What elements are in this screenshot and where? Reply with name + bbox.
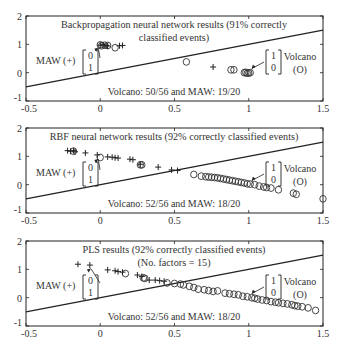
x-tick-label: 0.5	[168, 103, 181, 114]
volcano-point	[195, 286, 201, 293]
maw-point	[174, 168, 180, 174]
x-tick-label: 1.5	[317, 215, 330, 226]
maw-point	[134, 272, 140, 278]
maw-point	[75, 261, 81, 267]
x-tick-label: 1.5	[317, 328, 330, 339]
volcano-legend-symbol: (O)	[293, 289, 307, 301]
volcano-legend-symbol: (O)	[293, 64, 307, 76]
maw-vector-value: 0	[88, 162, 93, 173]
bracket-right	[278, 162, 281, 186]
x-tick-label: -0.5	[21, 103, 37, 114]
maw-point	[115, 155, 121, 161]
maw-legend-label: MAW (+)	[36, 280, 75, 292]
maw-vector-value: 0	[88, 275, 93, 286]
volcano-point	[183, 59, 189, 66]
volcano-point	[305, 304, 311, 311]
classification-summary: Volcano: 50/56 and MAW: 19/20	[108, 86, 241, 97]
x-tick-label: 1	[246, 328, 251, 339]
volcano-point	[251, 181, 257, 188]
volcano-point	[186, 283, 192, 290]
volcano-legend-label: Volcano	[284, 276, 317, 287]
maw-point	[157, 278, 163, 284]
volcano-point	[263, 297, 269, 304]
y-tick-label: 1	[17, 151, 22, 162]
maw-point	[146, 277, 152, 283]
volcano-legend-label: Volcano	[284, 163, 317, 174]
maw-legend-label: MAW (+)	[36, 55, 75, 67]
panel-3: -0.500.511.5-1012PLS results (92% correc…	[14, 236, 330, 339]
bracket-left	[83, 50, 86, 74]
x-tick-label: 1	[246, 103, 251, 114]
maw-arrow	[98, 48, 100, 58]
y-tick-label: 1	[17, 264, 22, 275]
bracket-right	[95, 162, 98, 186]
y-tick-label: 1	[17, 39, 22, 50]
maw-point	[152, 277, 158, 283]
panel-2: -0.500.511.5-1012RBF neural network resu…	[14, 123, 330, 226]
maw-point	[94, 152, 100, 158]
maw-point	[87, 262, 93, 268]
y-tick-label: 0	[17, 180, 22, 191]
maw-point	[127, 156, 133, 162]
maw-vector-value: 1	[88, 287, 93, 298]
figure: -0.500.511.5-1012Backpropagation neural …	[0, 0, 341, 355]
x-tick-label: 0.5	[168, 215, 181, 226]
volcano-vector-value: 0	[271, 62, 276, 73]
panel-title: PLS results (92% correctly classified ev…	[82, 244, 265, 256]
classification-summary: Volcano: 52/56 and MAW: 18/20	[108, 311, 241, 322]
maw-point	[109, 154, 115, 160]
bracket-right	[278, 50, 281, 74]
arrow-head-icon	[252, 290, 256, 294]
bracket-left	[266, 162, 269, 186]
volcano-point	[122, 270, 128, 277]
maw-point	[130, 157, 136, 163]
maw-point	[120, 42, 126, 48]
maw-vector-value: 1	[88, 62, 93, 73]
volcano-point	[191, 171, 197, 178]
maw-vector-value: 0	[88, 50, 93, 61]
bracket-left	[266, 50, 269, 74]
x-tick-label: 1.5	[317, 103, 330, 114]
volcano-vector-value: 1	[271, 50, 276, 61]
volcano-vector-value: 1	[271, 275, 276, 286]
bracket-left	[83, 162, 86, 186]
maw-point	[210, 64, 216, 70]
y-tick-label: -1	[14, 92, 22, 103]
volcano-vector-value: 0	[271, 287, 276, 298]
maw-vector-value: 1	[88, 174, 93, 185]
y-tick-label: -1	[14, 317, 22, 328]
maw-point	[161, 278, 167, 284]
maw-point	[68, 148, 74, 154]
x-tick-label: -0.5	[21, 328, 37, 339]
panel-subtitle: classified events)	[139, 32, 209, 44]
y-tick-label: 2	[17, 11, 22, 22]
x-tick-label: -0.5	[21, 215, 37, 226]
y-tick-label: 0	[17, 293, 22, 304]
panel-title: Backpropagation neural network results (…	[61, 19, 288, 31]
volcano-vector-value: 1	[271, 162, 276, 173]
panel-subtitle: (No. factors = 15)	[137, 257, 210, 269]
y-tick-label: 2	[17, 236, 22, 247]
bracket-right	[95, 50, 98, 74]
volcano-legend-label: Volcano	[284, 51, 317, 62]
volcano-point	[139, 161, 145, 168]
y-tick-label: 2	[17, 123, 22, 134]
volcano-vector-value: 0	[271, 174, 276, 185]
bracket-left	[266, 275, 269, 299]
arrow-head-icon	[252, 177, 256, 181]
volcano-point	[191, 284, 197, 291]
x-tick-label: 0.5	[168, 328, 181, 339]
arrow-head-icon	[252, 65, 256, 69]
volcano-point	[312, 307, 318, 314]
maw-point	[155, 164, 161, 170]
panel-1: -0.500.511.5-1012Backpropagation neural …	[14, 11, 330, 114]
bracket-left	[83, 275, 86, 299]
x-tick-label: 1	[246, 215, 251, 226]
bracket-right	[278, 275, 281, 299]
panel-title: RBF neural network results (92% correctl…	[50, 131, 299, 143]
classification-summary: Volcano: 52/56 and MAW: 18/20	[108, 198, 241, 209]
maw-legend-label: MAW (+)	[36, 167, 75, 179]
x-tick-label: 0	[98, 328, 103, 339]
volcano-point	[214, 287, 220, 294]
y-tick-label: -1	[14, 204, 22, 215]
